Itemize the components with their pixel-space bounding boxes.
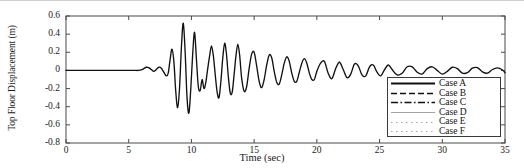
legend-item[interactable]: Case F [390,127,497,137]
legend-item-label: Case F [436,127,465,137]
legend: Case ACase BCase CCase DCase ECase F [387,77,501,137]
legend-line-sample-icon [390,118,436,127]
legend-line-sample-icon [390,89,436,98]
legend-line-sample-icon [390,127,436,136]
legend-line-sample-icon [390,79,436,88]
legend-line-sample-icon [390,98,436,107]
figure: Top Floor Displacement (m) 0.60.40.20-0.… [0,0,524,168]
x-axis-label: Time (sec) [0,152,524,163]
legend-line-sample-icon [390,108,436,117]
